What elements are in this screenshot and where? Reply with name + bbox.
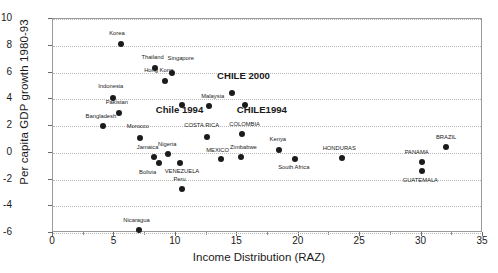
data-point (179, 186, 185, 192)
data-point (292, 156, 298, 162)
data-point-label: Malaysia (201, 93, 224, 99)
data-point-label: Korea (109, 30, 124, 36)
data-point (419, 168, 425, 174)
x-tick-label-25: 25 (344, 236, 374, 246)
y-tick-label-0: 0 (0, 147, 12, 157)
data-point-label: Nicaragua (123, 217, 149, 223)
data-point (443, 144, 449, 150)
y-tick-label--6: -6 (0, 227, 12, 237)
data-point (100, 123, 106, 129)
y-tick-label-10: 10 (0, 13, 12, 23)
data-point (162, 78, 168, 84)
data-point-label: Morocco (127, 123, 149, 129)
x-tick-label-5: 5 (98, 236, 128, 246)
data-point (339, 155, 345, 161)
data-point-label: Bangladesh (86, 113, 117, 119)
data-point-label: Indonesia (98, 83, 123, 89)
data-point-label: Pakistan (106, 99, 128, 105)
x-tick-label-0: 0 (37, 236, 67, 246)
data-point-label: VENEZUELA (165, 168, 199, 174)
x-tick-label-10: 10 (160, 236, 190, 246)
data-point-label: South Africa (278, 164, 309, 170)
gridline-y-2 (53, 126, 481, 127)
data-point-label: HONDURAS (323, 145, 356, 151)
data-point (177, 160, 183, 166)
data-point-label: MEXICO (206, 147, 229, 153)
data-point (156, 160, 162, 166)
gridline-y-10 (53, 19, 481, 20)
data-point (239, 131, 245, 137)
x-axis-title: Income Distribution (RAZ) (149, 251, 369, 263)
data-point-label: PANAMA (405, 149, 429, 155)
data-point (206, 103, 212, 109)
data-point-label: Chile 1994 (156, 105, 203, 115)
x-tick-mark-35 (482, 232, 483, 236)
data-point-label: Singapore (168, 55, 194, 61)
y-tick-label--2: -2 (0, 174, 12, 184)
data-point-label: COSTA RICA (184, 122, 219, 128)
y-tick-label-4: 4 (0, 93, 12, 103)
data-point-label: Zimbabwe (230, 144, 257, 150)
y-tick-label-8: 8 (0, 40, 12, 50)
y-tick-label-6: 6 (0, 67, 12, 77)
x-tick-label-20: 20 (283, 236, 313, 246)
y-axis-title: Per capita GDP growth 1980-93 (18, 2, 30, 202)
data-point-label: Jamaica (137, 144, 159, 150)
y-tick-label-2: 2 (0, 120, 12, 130)
data-point (204, 134, 210, 140)
data-point-label: Nigeria (158, 141, 176, 147)
gridline-y-8 (53, 46, 481, 47)
data-point (116, 110, 122, 116)
data-point (137, 135, 143, 141)
data-point (229, 90, 235, 96)
data-point-label: CHILE1994 (237, 105, 287, 115)
data-point-label: Peru (173, 176, 185, 182)
data-point-label: Bolivia (139, 169, 156, 175)
data-point-label: GUATEMALA (403, 177, 438, 183)
data-point-label: Hong Kong (144, 67, 173, 73)
data-point (118, 41, 124, 47)
x-tick-label-35: 35 (467, 236, 497, 246)
data-point-label: CHILE 2000 (217, 71, 270, 81)
y-tick-label--4: -4 (0, 200, 12, 210)
x-tick-label-30: 30 (406, 236, 436, 246)
data-point-label: Kenya (270, 136, 286, 142)
data-point-label: Thailand (141, 54, 163, 60)
plot-area: KoreaThailandSingaporeHong KongCHILE 200… (52, 18, 482, 232)
scatter-chart-figure: Per capita GDP growth 1980-93 Income Dis… (0, 0, 498, 273)
data-point-label: COLOMBIA (229, 121, 260, 127)
x-tick-label-15: 15 (221, 236, 251, 246)
gridline-y--6 (53, 233, 481, 234)
data-point (218, 156, 224, 162)
data-point (151, 154, 157, 160)
gridline-y--4 (53, 206, 481, 207)
data-point-label: BRAZIL (436, 134, 456, 140)
data-point (238, 154, 244, 160)
data-point (165, 151, 171, 157)
data-point (419, 159, 425, 165)
